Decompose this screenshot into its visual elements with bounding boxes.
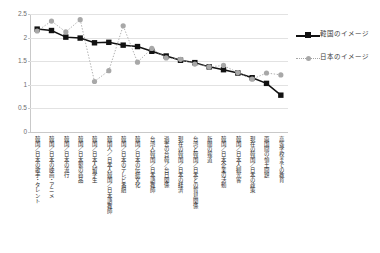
data-point-marker bbox=[106, 40, 111, 45]
x-axis-category-label: 韓国／日本の流行 bbox=[63, 136, 69, 177]
y-axis-tick-label: 0.5 bbox=[18, 105, 27, 112]
x-axis-category-label: 韓国人／日本人韓国／日本語教師 bbox=[106, 136, 112, 213]
x-axis-category-label: 台湾と韓国／日本との貿易関係 bbox=[192, 136, 198, 208]
gray-circle-dotted-line-icon bbox=[296, 54, 320, 63]
series-line-0 bbox=[37, 29, 281, 95]
x-axis-category-label: 韓国／日本のテレビ番組 bbox=[120, 136, 126, 193]
series-line-1 bbox=[37, 20, 281, 82]
legend-label-japan: 日本のイメージ bbox=[320, 53, 369, 62]
y-axis-tick-label: 2 bbox=[23, 34, 27, 41]
data-point-marker bbox=[77, 35, 82, 40]
legend-label-korea: 韓国のイメージ bbox=[320, 30, 369, 39]
data-point-marker bbox=[92, 79, 97, 84]
legend-item-korea[interactable]: 韓国のイメージ bbox=[296, 30, 378, 40]
data-point-marker bbox=[120, 42, 125, 47]
x-axis-category-label: 現在の韓国／日本の経済 bbox=[178, 136, 184, 193]
x-axis-category-label: 韓国／日本人観光客 bbox=[235, 136, 241, 182]
data-point-marker bbox=[235, 70, 240, 75]
data-point-marker bbox=[250, 77, 255, 82]
black-square-solid-line-icon bbox=[296, 31, 320, 40]
data-point-marker bbox=[35, 28, 40, 33]
x-axis-category-label: 新聞の報道 bbox=[206, 136, 212, 162]
data-point-marker bbox=[49, 28, 54, 33]
x-axis-category-label: 両国間の領土問題 bbox=[264, 136, 270, 177]
x-axis-category-label: 韓国／日本の伝統文化 bbox=[135, 136, 141, 188]
plot-area: 00.511.522.5 bbox=[30, 14, 288, 132]
y-axis-tick-label: 2.5 bbox=[18, 11, 27, 18]
data-point-marker bbox=[63, 29, 68, 34]
data-point-marker bbox=[264, 70, 269, 75]
y-axis-tick-mark bbox=[28, 132, 30, 133]
x-axis-line bbox=[30, 132, 288, 133]
y-axis-tick-label: 1.5 bbox=[18, 58, 27, 65]
data-point-marker bbox=[135, 44, 140, 49]
chart-figure: 00.511.522.5 韓国／日本の歌手・タレント韓国／日本の映画・アニメ韓国… bbox=[0, 0, 380, 253]
series-lines bbox=[30, 14, 288, 132]
y-axis-tick-label: 1 bbox=[23, 82, 27, 89]
data-point-marker bbox=[121, 23, 126, 28]
x-axis-category-label: 韓国／日本の歌手・タレント bbox=[34, 136, 40, 203]
data-point-marker bbox=[278, 92, 283, 97]
data-point-marker bbox=[135, 60, 140, 65]
x-axis-category-label: 高等学校までの教育 bbox=[278, 136, 284, 182]
x-axis-category-label: 現在の韓国／日本の政策 bbox=[249, 136, 255, 193]
data-point-marker bbox=[164, 55, 169, 60]
data-point-marker bbox=[221, 63, 226, 68]
data-point-marker bbox=[149, 46, 154, 51]
y-axis-tick-label: 0 bbox=[23, 129, 27, 136]
x-axis-category-label: 韓国／日本製の商品 bbox=[77, 136, 83, 182]
x-axis-category-label: 韓国／日本人留学生 bbox=[92, 136, 98, 182]
data-point-marker bbox=[207, 64, 212, 69]
data-point-marker bbox=[63, 34, 68, 39]
data-point-marker bbox=[278, 72, 283, 77]
chart-legend: 韓国のイメージ 日本のイメージ bbox=[296, 30, 378, 76]
data-point-marker bbox=[78, 17, 83, 22]
data-point-marker bbox=[92, 40, 97, 45]
data-point-marker bbox=[106, 68, 111, 73]
data-point-marker bbox=[264, 81, 269, 86]
x-axis-labels: 韓国／日本の歌手・タレント韓国／日本の映画・アニメ韓国／日本の流行韓国／日本製の… bbox=[30, 136, 288, 252]
x-axis-category-label: 過去の台韓／台日関係 bbox=[163, 136, 169, 188]
legend-item-japan[interactable]: 日本のイメージ bbox=[296, 53, 378, 63]
x-axis-category-label: 韓国／日本企業の活動 bbox=[221, 136, 227, 188]
data-point-marker bbox=[178, 57, 183, 62]
x-axis-category-label: 韓国／日本の映画・アニメ bbox=[49, 136, 55, 198]
data-point-marker bbox=[49, 18, 54, 23]
data-point-marker bbox=[192, 61, 197, 66]
x-axis-category-label: 台湾人韓国／日本語教師 bbox=[149, 136, 155, 193]
